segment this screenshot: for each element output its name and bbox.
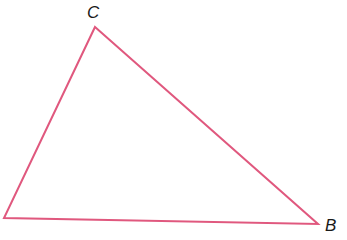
- triangle-svg: [0, 0, 347, 240]
- triangle-diagram: C B: [0, 0, 347, 240]
- vertex-label-c: C: [87, 4, 99, 21]
- vertex-label-b: B: [325, 217, 336, 234]
- triangle-shape: [4, 27, 318, 224]
